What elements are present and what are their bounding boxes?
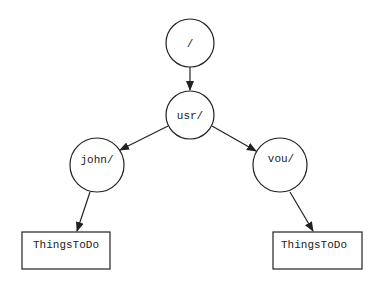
edge-usr-vou — [212, 126, 256, 151]
node-vou: vou/ — [253, 138, 307, 192]
node-usr-label: usr/ — [177, 110, 203, 122]
node-vou-label: vou/ — [268, 153, 294, 165]
directory-tree-diagram: / usr/ john/ vou/ ThingsToDo ThingsToDo — [0, 0, 380, 285]
node-john: john/ — [70, 138, 124, 192]
node-john-thingstodo-label: ThingsToDo — [33, 239, 99, 251]
node-vou-thingstodo-label: ThingsToDo — [281, 239, 347, 251]
node-john-label: john/ — [80, 154, 113, 166]
node-usr: usr/ — [166, 91, 214, 139]
node-vou-thingstodo: ThingsToDo — [273, 232, 362, 269]
edge-usr-john — [120, 126, 168, 150]
node-root: / — [166, 19, 214, 67]
edge-john-file — [77, 192, 90, 231]
node-root-label: / — [187, 38, 194, 50]
edge-vou-file — [290, 192, 313, 231]
node-john-thingstodo: ThingsToDo — [22, 232, 110, 269]
